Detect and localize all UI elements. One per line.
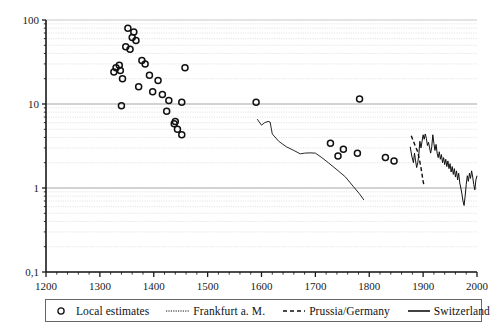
legend-item-local-estimates: Local estimates [46, 300, 149, 321]
data-point-marker [164, 108, 170, 114]
y-axis-ticks: 0,1110100 [23, 14, 47, 278]
data-point-marker [340, 146, 346, 152]
legend-item-switzerland: Switzerland [404, 300, 490, 321]
data-point-marker [166, 98, 172, 104]
y-tick-label: 0,1 [25, 266, 39, 278]
x-tick-label: 2000 [466, 280, 489, 292]
data-point-marker [357, 96, 363, 102]
data-point-marker [354, 150, 360, 156]
legend-label-local-estimates: Local estimates [76, 305, 149, 317]
legend-label-frankfurt: Frankfurt a. M. [193, 305, 265, 317]
legend-label-switzerland: Switzerland [434, 305, 490, 317]
data-point-marker [335, 153, 341, 159]
dashed-line-icon [279, 306, 309, 316]
axes [46, 20, 477, 272]
legend-label-prussia-germany: Prussia/Germany [309, 305, 390, 317]
solid-line-icon [404, 306, 434, 316]
gridlines [46, 20, 477, 272]
log-scatter-chart: 0,11101001200130014001500160017001800190… [0, 0, 504, 331]
x-axis-ticks: 120013001400150016001700180019002000 [35, 272, 489, 292]
x-tick-label: 1300 [89, 280, 112, 292]
data-point-marker [182, 65, 188, 71]
y-tick-label: 1 [34, 182, 40, 194]
x-tick-label: 1500 [197, 280, 220, 292]
data-point-marker [391, 158, 397, 164]
data-point-marker [179, 132, 185, 138]
series-switzerland [410, 134, 477, 205]
legend-item-prussia-germany: Prussia/Germany [279, 300, 390, 321]
y-tick-label: 100 [23, 14, 40, 26]
chart-legend: Local estimates Frankfurt a. M. Prussia/… [45, 299, 482, 322]
data-point-marker [159, 91, 165, 97]
data-point-marker [150, 89, 156, 95]
x-tick-label: 1800 [358, 280, 381, 292]
x-tick-label: 1400 [143, 280, 166, 292]
x-tick-label: 1700 [304, 280, 327, 292]
data-point-marker [382, 155, 388, 161]
x-tick-label: 1900 [412, 280, 435, 292]
y-tick-label: 10 [28, 98, 40, 110]
data-point-marker [174, 126, 180, 132]
open-circle-marker-icon [46, 305, 76, 317]
data-point-marker [155, 78, 161, 84]
series-line [410, 134, 477, 205]
data-point-marker [146, 72, 152, 78]
chart-container: 0,11101001200130014001500160017001800190… [0, 0, 504, 331]
data-point-marker [136, 84, 142, 90]
x-tick-label: 1600 [251, 280, 274, 292]
dotted-line-icon [163, 306, 193, 316]
data-point-marker [327, 140, 333, 146]
legend-item-frankfurt: Frankfurt a. M. [163, 300, 265, 321]
series-local-estimates [111, 25, 397, 164]
x-tick-label: 1200 [35, 280, 58, 292]
